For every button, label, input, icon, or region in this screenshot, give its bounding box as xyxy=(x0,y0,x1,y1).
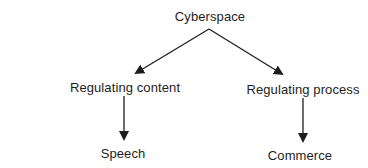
node-cyberspace: Cyberspace xyxy=(175,9,245,24)
edge-cyberspace-to-regulating-process xyxy=(209,29,282,74)
node-speech: Speech xyxy=(101,146,146,161)
node-regulating-content: Regulating content xyxy=(70,80,180,95)
diagram-canvas: Cyberspace Regulating content Regulating… xyxy=(0,0,368,168)
node-commerce: Commerce xyxy=(268,148,332,163)
node-regulating-process: Regulating process xyxy=(246,82,359,97)
edge-cyberspace-to-regulating-content xyxy=(136,29,209,73)
